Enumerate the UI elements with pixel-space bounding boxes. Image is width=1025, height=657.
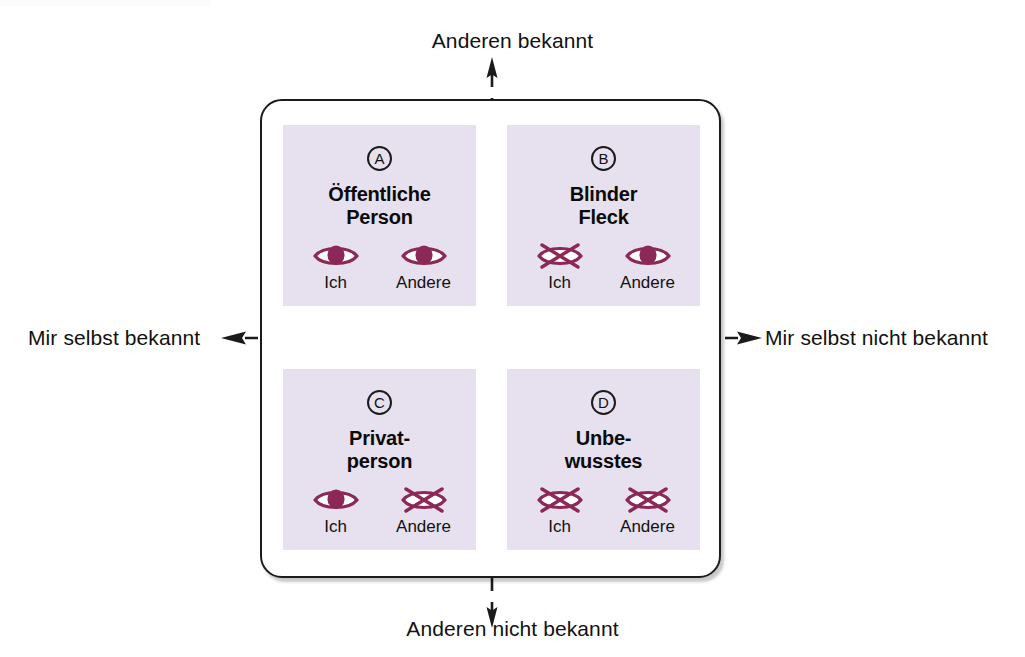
open-eye-icon bbox=[313, 243, 359, 269]
scan-artifact bbox=[0, 0, 210, 6]
arrow-left-head bbox=[221, 332, 246, 345]
quadrant-c-privatperson: C Privat- person Ich Andere bbox=[283, 369, 476, 550]
quadrant-title-d-line2: wusstes bbox=[565, 450, 643, 472]
icon-row-a: Ich Andere bbox=[283, 243, 476, 292]
icon-cell-d-andere: Andere bbox=[617, 487, 679, 536]
icon-caption-a-andere: Andere bbox=[396, 273, 451, 292]
quadrant-title-b-line1: Blinder bbox=[570, 183, 638, 205]
arrow-up-head bbox=[487, 57, 498, 78]
quadrant-title-d-line1: Unbe- bbox=[576, 427, 632, 449]
arrow-right-head bbox=[737, 332, 762, 345]
crossed-eye-icon bbox=[401, 487, 447, 513]
icon-caption-c-ich: Ich bbox=[324, 517, 347, 536]
icon-caption-a-ich: Ich bbox=[324, 273, 347, 292]
icon-cell-b-andere: Andere bbox=[617, 243, 679, 292]
quadrant-a-oeffentliche-person: A Öffentliche Person Ich Andere bbox=[283, 125, 476, 306]
axis-label-left: Mir selbst bekannt bbox=[28, 326, 200, 350]
quadrant-title-c-line1: Privat- bbox=[349, 427, 410, 449]
open-eye-icon bbox=[313, 487, 359, 513]
icon-caption-b-andere: Andere bbox=[620, 273, 675, 292]
quadrant-b-blinder-fleck: B Blinder Fleck Ich Andere bbox=[507, 125, 700, 306]
icon-cell-a-ich: Ich bbox=[305, 243, 367, 292]
johari-window-diagram: Anderen bekannt Anderen nicht bekannt Mi… bbox=[0, 0, 1025, 657]
quadrant-d-unbewusstes: D Unbe- wusstes Ich Andere bbox=[507, 369, 700, 550]
icon-cell-b-ich: Ich bbox=[529, 243, 591, 292]
quadrant-letter-c: C bbox=[367, 390, 392, 415]
open-eye-icon bbox=[401, 243, 447, 269]
icon-cell-a-andere: Andere bbox=[393, 243, 455, 292]
icon-cell-c-ich: Ich bbox=[305, 487, 367, 536]
axis-label-right: Mir selbst nicht bekannt bbox=[765, 326, 988, 350]
quadrant-title-b-line2: Fleck bbox=[578, 206, 628, 228]
icon-caption-b-ich: Ich bbox=[548, 273, 571, 292]
quadrant-title-b: Blinder Fleck bbox=[570, 183, 638, 229]
quadrant-title-a-line2: Person bbox=[346, 206, 413, 228]
crossed-eye-icon bbox=[537, 243, 583, 269]
axis-label-bottom: Anderen nicht bekannt bbox=[0, 617, 1025, 641]
quadrant-letter-b: B bbox=[591, 146, 616, 171]
open-eye-icon bbox=[625, 243, 671, 269]
crossed-eye-icon bbox=[537, 487, 583, 513]
quadrant-letter-d: D bbox=[591, 390, 616, 415]
icon-row-c: Ich Andere bbox=[283, 487, 476, 536]
axis-label-top: Anderen bekannt bbox=[0, 29, 1025, 53]
quadrant-letter-a: A bbox=[367, 146, 392, 171]
quadrant-title-d: Unbe- wusstes bbox=[565, 427, 643, 473]
icon-caption-c-andere: Andere bbox=[396, 517, 451, 536]
quadrant-title-a: Öffentliche Person bbox=[328, 183, 430, 229]
quadrant-title-a-line1: Öffentliche bbox=[328, 183, 430, 205]
icon-cell-c-andere: Andere bbox=[393, 487, 455, 536]
quadrant-title-c: Privat- person bbox=[347, 427, 412, 473]
icon-caption-d-ich: Ich bbox=[548, 517, 571, 536]
icon-cell-d-ich: Ich bbox=[529, 487, 591, 536]
icon-caption-d-andere: Andere bbox=[620, 517, 675, 536]
icon-row-d: Ich Andere bbox=[507, 487, 700, 536]
crossed-eye-icon bbox=[625, 487, 671, 513]
icon-row-b: Ich Andere bbox=[507, 243, 700, 292]
quadrant-title-c-line2: person bbox=[347, 450, 412, 472]
